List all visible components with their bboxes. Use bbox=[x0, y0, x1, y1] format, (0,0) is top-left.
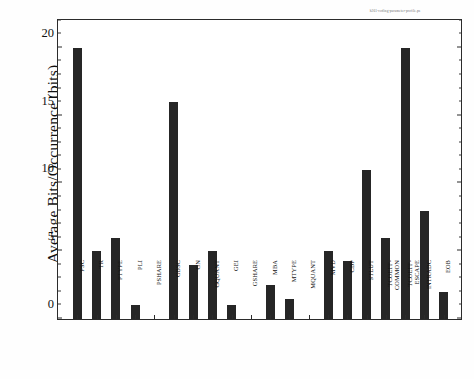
x-tick-label: TR bbox=[98, 260, 105, 324]
x-tick-label: PSC bbox=[79, 260, 86, 324]
y-tick-mark-right bbox=[457, 318, 461, 319]
x-tick-label: GEI bbox=[233, 260, 240, 324]
y-tick-minor-right bbox=[459, 236, 462, 237]
y-tick-mark bbox=[58, 46, 62, 47]
y-tick-minor bbox=[58, 168, 61, 169]
x-tick-mark bbox=[328, 315, 329, 319]
y-tick-mark-right bbox=[457, 182, 461, 183]
x-tick-label: TCOEFF- ESCAPE bbox=[407, 260, 420, 324]
y-tick-mark bbox=[58, 114, 62, 115]
x-tick-label: GBSC bbox=[175, 260, 182, 324]
y-tick-minor bbox=[58, 155, 61, 156]
x-tick-label: MVD bbox=[330, 260, 337, 324]
y-tick-minor bbox=[58, 277, 61, 278]
y-tick-minor-right bbox=[459, 290, 462, 291]
y-tick-minor-right bbox=[459, 101, 462, 102]
x-tick-label: CBP bbox=[349, 260, 356, 324]
x-tick-label: MQUANT bbox=[310, 260, 317, 324]
x-tick-label: EOB bbox=[445, 260, 452, 324]
y-tick-minor bbox=[58, 223, 61, 224]
y-tick-minor-right bbox=[459, 87, 462, 88]
y-tick-minor-right bbox=[459, 19, 462, 20]
y-tick-minor bbox=[58, 101, 61, 102]
y-tick-minor bbox=[58, 195, 61, 196]
y-tick-minor bbox=[58, 33, 61, 34]
x-tick-label: PSHARE bbox=[156, 260, 163, 324]
y-tick-minor-right bbox=[459, 155, 462, 156]
y-tick-minor-right bbox=[459, 33, 462, 34]
y-tick-mark-right bbox=[457, 250, 461, 251]
x-tick-label: TCOEFF- COMMON bbox=[387, 260, 400, 324]
x-tick-label: STLUT bbox=[368, 260, 375, 324]
y-tick-minor bbox=[58, 60, 61, 61]
y-tick-label: 15 bbox=[42, 93, 55, 108]
y-tick-mark bbox=[58, 318, 62, 319]
x-tick-label: INTRADC bbox=[426, 260, 433, 324]
x-tick-label: GQUANT bbox=[214, 260, 221, 324]
y-tick-minor bbox=[58, 87, 61, 88]
y-tick-minor-right bbox=[459, 277, 462, 278]
x-tick-label: GSHARE bbox=[252, 260, 259, 324]
x-tick-mark bbox=[193, 315, 194, 319]
y-tick-minor bbox=[58, 73, 61, 74]
y-tick-minor-right bbox=[459, 304, 462, 305]
y-tick-minor bbox=[58, 304, 61, 305]
x-tick-mark bbox=[135, 315, 136, 319]
x-tick-label: PLI bbox=[137, 260, 144, 324]
x-tick-label: MTYPE bbox=[291, 260, 298, 324]
y-tick-minor bbox=[58, 209, 61, 210]
y-tick-mark bbox=[58, 182, 62, 183]
header-annotation-text: h261-coding-parameter-profile.ps bbox=[330, 9, 460, 13]
y-tick-label: 5 bbox=[48, 229, 54, 244]
y-tick-minor-right bbox=[459, 195, 462, 196]
bar-chart-figure: h261-coding-parameter-profile.ps Average… bbox=[0, 0, 474, 379]
y-tick-minor-right bbox=[459, 128, 462, 129]
x-tick-label: MBA bbox=[272, 260, 279, 324]
x-tick-label: PTYPE bbox=[117, 260, 124, 324]
y-tick-mark bbox=[58, 250, 62, 251]
y-tick-minor-right bbox=[459, 209, 462, 210]
x-tick-mark bbox=[270, 315, 271, 319]
y-tick-minor-right bbox=[459, 168, 462, 169]
x-tick-mark bbox=[405, 315, 406, 319]
y-tick-minor bbox=[58, 263, 61, 264]
x-tick-label: GN bbox=[195, 260, 202, 324]
y-tick-minor bbox=[58, 290, 61, 291]
y-tick-label: 10 bbox=[42, 161, 55, 176]
y-tick-mark-right bbox=[457, 114, 461, 115]
y-tick-minor bbox=[58, 236, 61, 237]
y-tick-mark-right bbox=[457, 46, 461, 47]
y-tick-label: 0 bbox=[48, 297, 54, 312]
y-tick-minor-right bbox=[459, 60, 462, 61]
y-tick-minor bbox=[58, 19, 61, 20]
y-tick-minor-right bbox=[459, 141, 462, 142]
y-tick-minor bbox=[58, 128, 61, 129]
y-tick-minor-right bbox=[459, 73, 462, 74]
y-tick-minor bbox=[58, 141, 61, 142]
y-tick-label: 20 bbox=[42, 25, 55, 40]
y-tick-minor-right bbox=[459, 263, 462, 264]
y-tick-minor-right bbox=[459, 223, 462, 224]
